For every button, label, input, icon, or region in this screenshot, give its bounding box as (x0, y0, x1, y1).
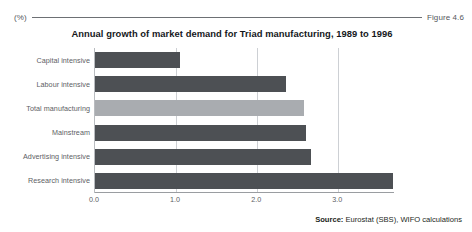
bar (95, 76, 286, 92)
plot-area (94, 48, 394, 193)
category-row: Total manufacturing (14, 100, 90, 116)
figure-container: (%) Figure 4.6 Annual growth of market d… (0, 0, 472, 232)
bar (95, 125, 306, 141)
bar-series (95, 48, 394, 193)
category-row: Labour intensive (14, 76, 90, 92)
bar-row (95, 76, 394, 92)
chart-title: Annual growth of market demand for Triad… (0, 28, 464, 39)
bar-row (95, 52, 394, 68)
source-prefix: Source: (315, 215, 343, 224)
x-tick-label: 2.0 (251, 195, 261, 204)
bar-row (95, 125, 394, 141)
header-rule (32, 17, 422, 18)
category-row: Capital intensive (14, 52, 90, 68)
category-label: Capital intensive (36, 56, 90, 65)
x-tick-label: 0.0 (89, 195, 99, 204)
category-row: Mainstream (14, 125, 90, 141)
bar (95, 149, 311, 165)
category-row: Research intensive (14, 173, 90, 189)
source-text: Eurostat (SBS), WIFO calculations (343, 215, 462, 224)
category-label: Total manufacturing (26, 104, 90, 113)
category-label: Labour intensive (36, 80, 90, 89)
category-label: Advertising intensive (23, 152, 90, 161)
x-axis-tick-labels: 0.0 1.0 2.0 3.0 (94, 195, 394, 207)
bar (95, 173, 393, 189)
x-tick-label: 3.0 (332, 195, 342, 204)
bar-row (95, 100, 394, 116)
plot-wrapper (94, 48, 394, 193)
figure-number: Figure 4.6 (427, 13, 464, 22)
category-axis-labels: Capital intensive Labour intensive Total… (14, 48, 90, 193)
bar (95, 100, 304, 116)
source-note: Source: Eurostat (SBS), WIFO calculation… (315, 215, 462, 224)
bar (95, 52, 180, 68)
x-tick-label: 1.0 (170, 195, 180, 204)
category-label: Research intensive (28, 176, 90, 185)
bar-row (95, 173, 394, 189)
bar-row (95, 149, 394, 165)
category-row: Advertising intensive (14, 149, 90, 165)
category-label: Mainstream (52, 128, 90, 137)
figure-header: (%) Figure 4.6 (14, 10, 464, 24)
unit-label: (%) (14, 13, 27, 22)
